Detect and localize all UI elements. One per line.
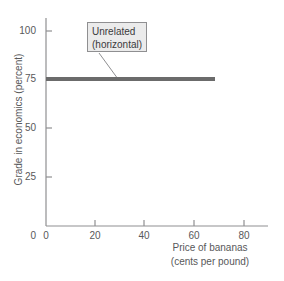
annotation-text-line1: Unrelated (92, 25, 146, 38)
ytick-label-100: 100 (8, 25, 36, 36)
xtick-label-60: 60 (182, 230, 206, 241)
xtick-label-80: 80 (232, 230, 256, 241)
chart-container: 100 75 50 25 0 0 20 40 60 80 Grade in ec… (0, 0, 284, 281)
annotation-leader-line (99, 53, 118, 79)
annotation-text-line2: (horizontal) (92, 38, 146, 51)
annotation-callout: Unrelated (horizontal) (87, 22, 147, 52)
xtick-label-20: 20 (83, 230, 107, 241)
ytick-label-0: 0 (8, 230, 36, 241)
x-axis-title-line2: (cents per pound) (148, 255, 272, 269)
x-axis-title-line1: Price of bananas (148, 241, 272, 255)
x-axis-ticks (95, 220, 244, 226)
xtick-label-40: 40 (132, 230, 156, 241)
xtick-label-0: 0 (34, 230, 58, 241)
x-axis-title: Price of bananas (cents per pound) (148, 241, 272, 269)
y-axis-title: Grade in economics (percent) (13, 50, 24, 190)
y-axis-ticks (46, 31, 52, 177)
